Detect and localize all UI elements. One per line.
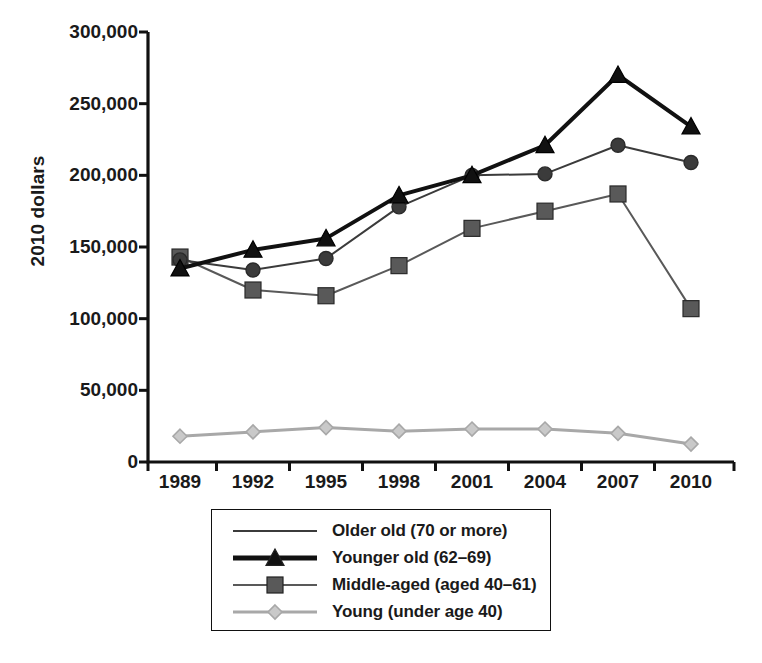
data-point-triangle: [609, 66, 627, 82]
legend-label: Young (under age 40): [325, 602, 503, 622]
x-tick-label: 2001: [437, 472, 507, 491]
diamond-marker: [684, 437, 698, 451]
data-point-square: [318, 288, 334, 304]
triangle-marker: [609, 66, 627, 82]
series-3: [173, 421, 698, 451]
data-point-diamond: [538, 422, 552, 436]
data-point-diamond: [684, 437, 698, 451]
data-point-circle: [684, 155, 698, 169]
data-point-circle: [538, 167, 552, 181]
diamond-marker: [392, 424, 406, 438]
legend-item[interactable]: Young (under age 40): [212, 598, 550, 625]
circle-marker: [246, 263, 260, 277]
data-point-square: [464, 220, 480, 236]
diamond-marker: [611, 426, 625, 440]
x-tick-label: 2010: [656, 472, 726, 491]
data-point-circle: [319, 251, 333, 265]
data-point-diamond: [268, 605, 282, 619]
square-marker: [464, 220, 480, 236]
diamond-marker: [268, 605, 282, 619]
plot-area: [0, 0, 762, 500]
data-point-diamond: [392, 424, 406, 438]
series-line: [180, 75, 691, 269]
square-marker: [683, 301, 699, 317]
series-1: [171, 66, 700, 276]
data-point-circle: [611, 138, 625, 152]
legend-swatch-none-icon: [225, 520, 325, 542]
data-point-square: [683, 301, 699, 317]
legend-label: Middle-aged (aged 40–61): [325, 575, 537, 595]
data-point-square: [537, 203, 553, 219]
x-tick-label: 2004: [510, 472, 580, 491]
legend-item[interactable]: Younger old (62–69): [212, 544, 550, 571]
circle-marker: [611, 138, 625, 152]
chart-figure: 2010 dollars 050,000100,000150,000200,00…: [0, 0, 762, 663]
square-marker: [267, 577, 283, 593]
circle-marker: [684, 155, 698, 169]
legend-marker-icon: [225, 574, 325, 596]
chart-legend: Older old (70 or more)Younger old (62–69…: [211, 509, 551, 631]
square-marker: [610, 186, 626, 202]
diamond-marker: [538, 422, 552, 436]
x-tick-label: 1989: [145, 472, 215, 491]
data-point-diamond: [319, 421, 333, 435]
square-marker: [537, 203, 553, 219]
data-point-diamond: [246, 425, 260, 439]
data-point-square: [267, 577, 283, 593]
x-tick-label: 1992: [218, 472, 288, 491]
legend-swatch-triangle-icon: [225, 547, 325, 569]
legend-marker-icon: [225, 547, 325, 569]
legend-label: Younger old (62–69): [325, 548, 491, 568]
diamond-marker: [319, 421, 333, 435]
data-point-diamond: [173, 429, 187, 443]
legend-item[interactable]: Middle-aged (aged 40–61): [212, 571, 550, 598]
legend-swatch-diamond-icon: [225, 601, 325, 623]
data-point-square: [391, 258, 407, 274]
diamond-marker: [173, 429, 187, 443]
square-marker: [245, 282, 261, 298]
legend-label: Older old (70 or more): [325, 521, 507, 541]
square-marker: [318, 288, 334, 304]
legend-item[interactable]: Older old (70 or more): [212, 517, 550, 544]
data-point-square: [610, 186, 626, 202]
data-point-circle: [246, 263, 260, 277]
square-marker: [391, 258, 407, 274]
data-point-diamond: [465, 422, 479, 436]
circle-marker: [319, 251, 333, 265]
data-point-square: [245, 282, 261, 298]
x-tick-label: 2007: [583, 472, 653, 491]
diamond-marker: [246, 425, 260, 439]
x-tick-label: 1995: [291, 472, 361, 491]
diamond-marker: [465, 422, 479, 436]
circle-marker: [538, 167, 552, 181]
x-tick-label: 1998: [364, 472, 434, 491]
data-point-diamond: [611, 426, 625, 440]
legend-swatch-square-icon: [225, 574, 325, 596]
legend-marker-icon: [225, 601, 325, 623]
legend-marker-icon: [225, 520, 325, 542]
